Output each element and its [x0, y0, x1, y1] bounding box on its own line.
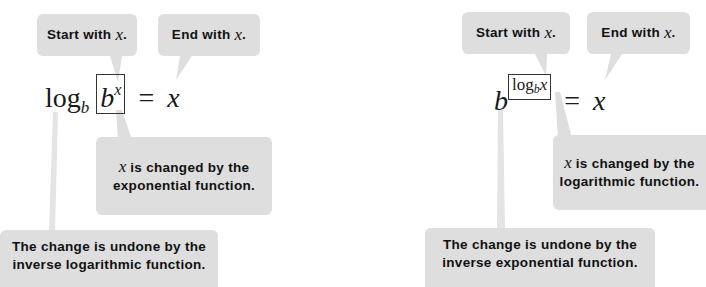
- exp-base: b: [494, 85, 508, 116]
- undone-bubble: The change is undone by the inverse expo…: [425, 228, 655, 287]
- start-bubble: Start with x.: [462, 12, 570, 54]
- end-bubble: End with x.: [587, 12, 690, 54]
- equation-exp-of-log: blogbx = x: [494, 74, 606, 117]
- rhs-x: x: [593, 85, 605, 116]
- boxed-logarithm: logbx: [508, 74, 551, 100]
- changed-bubble: x is changed by the logarithmic function…: [553, 135, 706, 210]
- equals-sign: =: [564, 85, 580, 116]
- right-panel: Start with x. End with x. blogbx = x x i…: [0, 0, 706, 287]
